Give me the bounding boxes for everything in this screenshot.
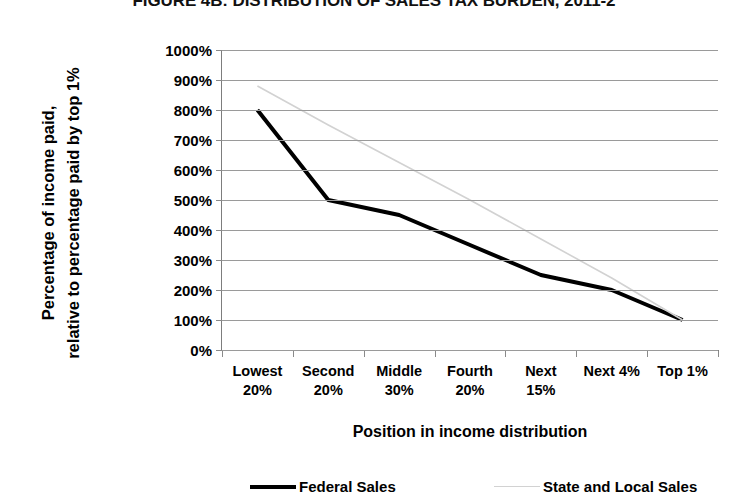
y-axis-tick (216, 290, 222, 291)
gridline (222, 350, 718, 351)
y-axis-tick-label: 600% (128, 162, 212, 179)
x-axis-tick (647, 351, 648, 357)
legend-line-icon-federal-sales (250, 485, 296, 489)
legend-item-federal-sales[interactable]: Federal Sales (250, 478, 396, 495)
y-axis-tick-label: 900% (128, 72, 212, 89)
y-axis-tick (216, 200, 222, 201)
y-axis-title-line-2: relative to percentage paid by top 1% (61, 48, 86, 378)
x-axis-tick-label: Top 1% (638, 362, 728, 381)
y-axis-tick (216, 230, 222, 231)
y-axis-tick (216, 110, 222, 111)
gridline (222, 290, 718, 291)
x-axis-tick-labels: Lowest20%Second20%Middle30%Fourth20%Next… (222, 362, 718, 406)
legend-item-state-and-local-sales[interactable]: State and Local Sales (494, 478, 697, 495)
x-axis-tick (293, 351, 294, 357)
x-axis-tick (364, 351, 365, 357)
y-axis-tick (216, 50, 222, 51)
y-axis-tick (216, 80, 222, 81)
y-axis-tick (216, 260, 222, 261)
series-line-state-and-local-sales (257, 86, 682, 320)
x-axis-tick (576, 351, 577, 357)
gridline (222, 110, 718, 111)
gridline (222, 230, 718, 231)
chart-legend: Federal Sales State and Local Sales (222, 478, 722, 502)
y-axis-tick (216, 320, 222, 321)
x-axis-tick (718, 351, 719, 357)
y-axis-tick-label: 500% (128, 192, 212, 209)
plot-area (222, 50, 718, 350)
y-axis-tick (216, 170, 222, 171)
series-line-federal-sales (257, 110, 682, 320)
y-axis-tick-label: 200% (128, 282, 212, 299)
gridline (222, 140, 718, 141)
gridline (222, 50, 718, 51)
y-axis-tick-label: 800% (128, 102, 212, 119)
y-axis-tick-label: 0% (128, 342, 212, 359)
y-axis-title: Percentage of income paid, relative to p… (36, 48, 86, 378)
chart-title: FIGURE 4B: DISTRIBUTION OF SALES TAX BUR… (0, 0, 748, 11)
gridline (222, 170, 718, 171)
y-axis-tick-labels: 0%100%200%300%400%500%600%700%800%900%10… (126, 0, 212, 504)
y-axis-tick-label: 400% (128, 222, 212, 239)
y-axis-tick (216, 350, 222, 351)
x-axis-title: Position in income distribution (222, 423, 718, 441)
y-axis-tick-label: 100% (128, 312, 212, 329)
legend-line-icon-state-and-local-sales (494, 486, 540, 487)
legend-label-state-and-local-sales: State and Local Sales (543, 478, 697, 495)
x-axis-tick (222, 351, 223, 357)
gridline (222, 200, 718, 201)
gridline (222, 80, 718, 81)
x-axis-tick (435, 351, 436, 357)
y-axis-tick-label: 300% (128, 252, 212, 269)
y-axis-tick-label: 1000% (128, 42, 212, 59)
gridline (222, 260, 718, 261)
x-axis-tick (505, 351, 506, 357)
legend-label-federal-sales: Federal Sales (299, 478, 396, 495)
figure-sales-tax-burden: FIGURE 4B: DISTRIBUTION OF SALES TAX BUR… (0, 0, 748, 504)
y-axis-tick-label: 700% (128, 132, 212, 149)
gridline (222, 320, 718, 321)
y-axis-tick (216, 140, 222, 141)
y-axis-title-line-1: Percentage of income paid, (36, 48, 61, 378)
